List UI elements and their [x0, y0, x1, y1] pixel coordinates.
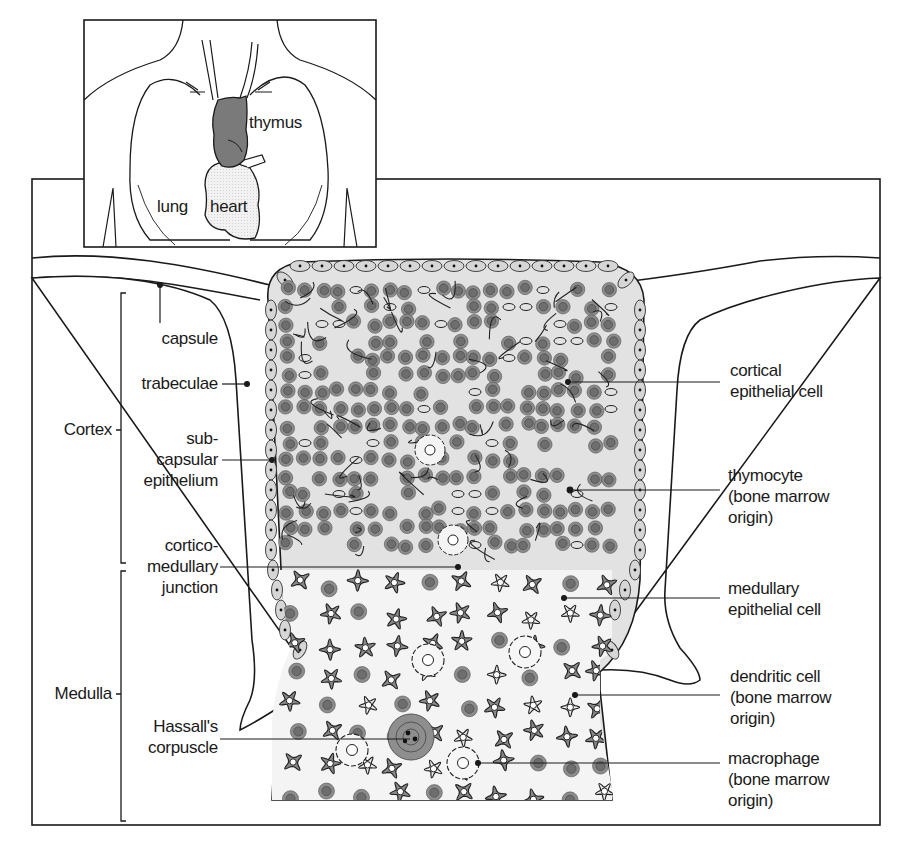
label-capsule: capsule [162, 328, 219, 349]
label-hassalls-corpuscle: Hassall's corpuscle [148, 716, 218, 758]
label-corticomedullary-junction: cortico- medullary junction [147, 535, 218, 598]
label-cortical-epithelial-cell: cortical epithelial cell [730, 360, 823, 402]
label-lung: lung [157, 196, 188, 217]
label-thymocyte: thymocyte (bone marrow origin) [728, 465, 829, 528]
label-subcapsular-epithelium: sub- capsular epithelium [144, 428, 219, 491]
label-cortex: Cortex [64, 419, 112, 440]
label-thymus: thymus [249, 112, 302, 133]
label-medulla: Medulla [55, 683, 112, 704]
label-macrophage: macrophage (bone marrow origin) [728, 748, 829, 811]
label-heart: heart [210, 196, 247, 217]
label-dendritic-cell: dendritic cell (bone marrow origin) [730, 666, 831, 729]
label-medullary-epithelial-cell: medullary epithelial cell [728, 578, 821, 620]
hassalls-corpuscle [388, 714, 434, 760]
thymus-diagram [0, 0, 900, 859]
thymus-shape [213, 96, 248, 167]
label-trabeculae: trabeculae [142, 373, 218, 394]
